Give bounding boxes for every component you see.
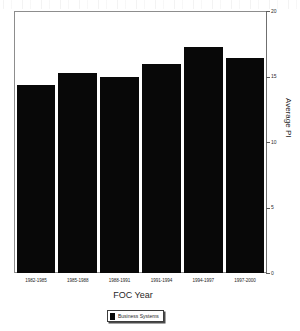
legend-color-swatch-business-systems bbox=[110, 313, 115, 320]
bars-layer bbox=[15, 12, 266, 273]
bar-1994-1997 bbox=[184, 47, 223, 273]
x-tick-label-1988-1991: 1988-1991 bbox=[99, 278, 141, 284]
bar-1988-1991 bbox=[100, 77, 139, 273]
x-tick-label-1991-1994: 1991-1994 bbox=[141, 278, 183, 284]
bar-slot bbox=[17, 12, 56, 273]
y-tick-15 bbox=[266, 77, 270, 78]
y-axis-title: Average PI bbox=[284, 98, 293, 112]
x-tick-label-1985-1988: 1985-1988 bbox=[57, 278, 99, 284]
y-tick-10 bbox=[266, 142, 270, 143]
legend-label-business-systems: Business Systems bbox=[118, 313, 159, 320]
bar-1997-2000 bbox=[226, 58, 265, 273]
y-tick-label-15: 15 bbox=[271, 74, 276, 79]
x-axis-tick-labels: 1982-19851985-19881988-19911991-19941994… bbox=[15, 278, 266, 288]
y-tick-5 bbox=[266, 208, 270, 209]
bar-1982-1985 bbox=[17, 85, 56, 273]
chart-legend: Business Systems bbox=[107, 310, 164, 322]
bar-chart-figure: 05101520 1982-19851985-19881988-19911991… bbox=[0, 0, 300, 331]
bar-1985-1988 bbox=[58, 73, 97, 273]
x-tick-label-1997-2000: 1997-2000 bbox=[224, 278, 266, 284]
bar-slot bbox=[58, 12, 97, 273]
y-tick-label-0: 0 bbox=[271, 271, 274, 276]
bar-slot bbox=[142, 12, 181, 273]
y-tick-label-5: 5 bbox=[271, 205, 274, 210]
y-tick-label-10: 10 bbox=[271, 140, 276, 145]
y-tick-20 bbox=[266, 11, 270, 12]
y-tick-0 bbox=[266, 273, 270, 274]
x-tick-label-1982-1985: 1982-1985 bbox=[15, 278, 57, 284]
x-axis-title: FOC Year bbox=[0, 290, 266, 301]
bar-1991-1994 bbox=[142, 64, 181, 273]
bar-slot bbox=[184, 12, 223, 273]
bar-slot bbox=[100, 12, 139, 273]
x-tick-label-1994-1997: 1994-1997 bbox=[182, 278, 224, 284]
bar-slot bbox=[226, 12, 265, 273]
y-tick-label-20: 20 bbox=[271, 9, 276, 14]
